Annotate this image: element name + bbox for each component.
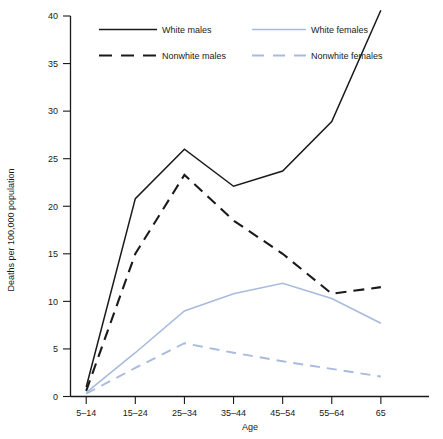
x-tick-label: 25–34 [172,408,197,418]
legend-label-nonwhite-males: Nonwhite males [162,51,227,61]
x-axis-ticks: 5–1415–2425–3435–4445–5455–6465 [76,397,386,419]
y-axis-ticks: 0510152025303540 [48,11,71,402]
y-tick-label: 5 [53,344,58,354]
y-tick-label: 0 [53,392,58,402]
y-axis-title: Deaths per 100,000 population [6,168,16,291]
series-line-nonwhite-females [86,343,381,393]
y-tick-label: 10 [48,297,58,307]
x-tick-label: 65 [376,408,386,418]
x-tick-label: 55–64 [319,408,344,418]
legend-label-white-males: White males [162,25,212,35]
chart-legend: White males Nonwhite males White females… [99,25,383,61]
legend-label-nonwhite-females: Nonwhite females [311,51,383,61]
y-tick-label: 15 [48,249,58,259]
line-chart: 0510152025303540 5–1415–2425–3435–4445–5… [0,0,443,439]
x-axis-title: Age [242,422,258,432]
series-line-nonwhite-males [86,175,381,391]
legend-label-white-females: White females [311,25,369,35]
legend-item-white-males: White males [99,25,212,35]
series-line-white-males [86,10,381,387]
series-line-white-females [86,283,381,392]
legend-item-white-females: White females [252,25,369,35]
x-tick-label: 15–24 [123,408,148,418]
legend-item-nonwhite-males: Nonwhite males [99,51,227,61]
y-tick-label: 30 [48,106,58,116]
x-tick-label: 35–44 [221,408,246,418]
x-tick-label: 5–14 [76,408,96,418]
legend-item-nonwhite-females: Nonwhite females [252,51,383,61]
y-tick-label: 40 [48,11,58,21]
x-tick-label: 45–54 [270,408,295,418]
y-tick-label: 35 [48,59,58,69]
chart-figure: 0510152025303540 5–1415–2425–3435–4445–5… [0,0,443,439]
y-tick-label: 25 [48,154,58,164]
data-series-group [86,10,381,393]
y-tick-label: 20 [48,202,58,212]
